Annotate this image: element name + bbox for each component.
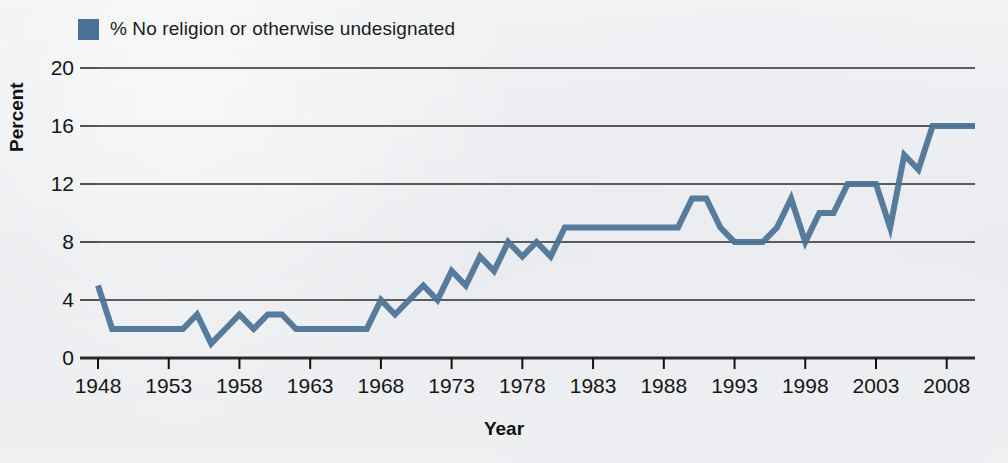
x-tick-label: 1973: [428, 374, 475, 398]
y-tick-label: 20: [26, 56, 74, 80]
x-tick-label: 1948: [75, 374, 122, 398]
y-tick-label: 8: [26, 230, 74, 254]
x-tick-label: 1958: [216, 374, 263, 398]
x-tick-label: 1953: [145, 374, 192, 398]
x-tick-label: 1968: [358, 374, 405, 398]
x-tick-label: 1998: [782, 374, 829, 398]
y-tick-label: 16: [26, 114, 74, 138]
x-tick-label: 1983: [570, 374, 617, 398]
series-line: [98, 126, 975, 344]
x-tick-label: 1978: [499, 374, 546, 398]
x-tick-label: 1963: [287, 374, 334, 398]
x-tick-label: 1988: [640, 374, 687, 398]
y-tick-label: 0: [26, 346, 74, 370]
x-tick-label: 1993: [711, 374, 758, 398]
line-chart: % No religion or otherwise undesignated …: [0, 0, 1008, 463]
x-tick-label: 2003: [853, 374, 900, 398]
y-tick-label: 12: [26, 172, 74, 196]
x-tick-label: 2008: [923, 374, 970, 398]
y-tick-label: 4: [26, 288, 74, 312]
